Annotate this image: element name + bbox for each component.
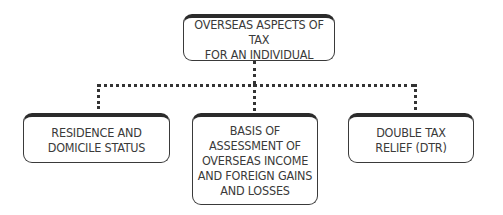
right-connector <box>414 84 417 110</box>
child-node-basis-of-assessment: BASIS OF ASSESSMENT OF OVERSEAS INCOME A… <box>192 113 318 205</box>
center-connector <box>253 84 256 111</box>
child-node-label: DOUBLE TAX RELIEF (DTR) <box>375 125 446 155</box>
horizontal-connector <box>97 84 415 87</box>
child-node-residence: RESIDENCE AND DOMICILE STATUS <box>23 113 170 163</box>
root-connector <box>253 61 256 84</box>
child-node-label: BASIS OF ASSESSMENT OF OVERSEAS INCOME A… <box>198 123 312 198</box>
left-connector <box>97 84 100 109</box>
root-node: OVERSEAS ASPECTS OF TAX FOR AN INDIVIDUA… <box>183 14 335 61</box>
root-node-label: OVERSEAS ASPECTS OF TAX FOR AN INDIVIDUA… <box>184 17 334 62</box>
child-node-label: RESIDENCE AND DOMICILE STATUS <box>48 125 146 155</box>
child-node-double-tax-relief: DOUBLE TAX RELIEF (DTR) <box>348 113 474 163</box>
